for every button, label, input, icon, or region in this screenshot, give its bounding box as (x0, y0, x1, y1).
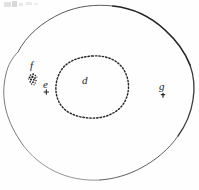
figure-canvas: f e d g (0, 0, 199, 190)
plus-mark-marker (44, 90, 49, 95)
figure-label-d: d (82, 75, 88, 86)
figure-label-f: f (30, 60, 33, 71)
figure-drawing (0, 0, 199, 190)
tick-mark-marker (161, 93, 164, 97)
dot-cluster-marker (28, 73, 38, 85)
figure-label-g: g (159, 81, 165, 92)
outer-contour (4, 5, 194, 180)
figure-label-e: e (43, 79, 48, 90)
inner-contour (56, 56, 129, 118)
